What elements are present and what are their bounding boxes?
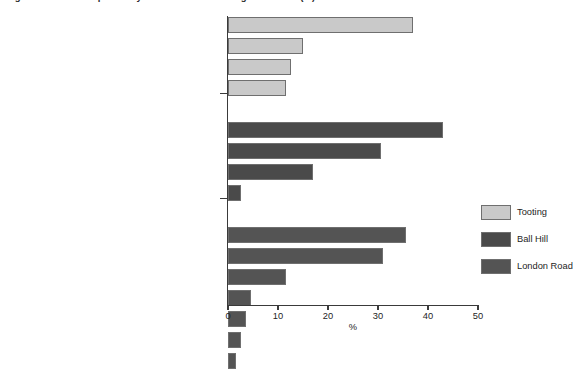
x-tick-label: 0 (208, 311, 248, 321)
bar (228, 290, 251, 306)
x-axis-line (227, 305, 479, 306)
legend-label: Tooting (517, 203, 547, 222)
bar (228, 17, 413, 33)
x-tick-mark (377, 305, 378, 310)
bar (228, 332, 241, 348)
group-separator-tick (220, 198, 228, 199)
bar (228, 248, 383, 264)
bar (228, 164, 313, 180)
bar (228, 269, 286, 285)
x-tick-mark (427, 305, 428, 310)
bar (228, 353, 236, 369)
legend-swatch (481, 205, 511, 220)
legend-swatch (481, 232, 511, 247)
x-tick-mark (477, 305, 478, 310)
x-tick-mark (227, 305, 228, 310)
x-tick-label: 10 (258, 311, 298, 321)
legend-label: London Road (517, 257, 573, 276)
bar (228, 185, 241, 201)
bar (228, 80, 286, 96)
legend-label: Ball Hill (517, 230, 548, 249)
y-axis-line (227, 16, 228, 306)
bar (228, 59, 291, 75)
x-tick-label: 50 (458, 311, 498, 321)
bar (228, 122, 443, 138)
legend-swatch (481, 259, 511, 274)
x-tick-label: 20 (308, 311, 348, 321)
bar (228, 143, 381, 159)
x-axis-label: % (228, 322, 478, 332)
x-tick-mark (327, 305, 328, 310)
x-tick-mark (277, 305, 278, 310)
x-tick-label: 40 (408, 311, 448, 321)
group-separator-tick (220, 93, 228, 94)
x-tick-label: 30 (358, 311, 398, 321)
bar (228, 227, 406, 243)
bar (228, 38, 303, 54)
